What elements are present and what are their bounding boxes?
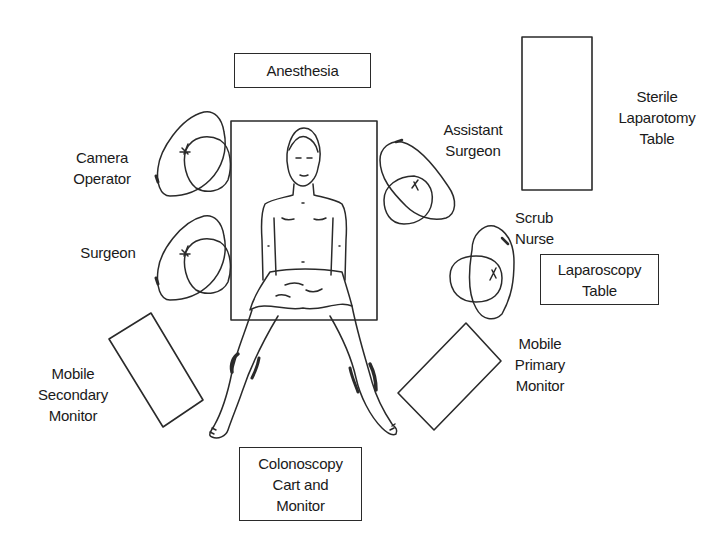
anesthesia-label: Anesthesia bbox=[266, 60, 338, 81]
scrub-nurse-label: Scrub Nurse bbox=[515, 207, 565, 249]
patient-figure bbox=[210, 128, 397, 438]
assistant-surgeon-label: Assistant Surgeon bbox=[432, 119, 514, 161]
sterile-laparotomy-table bbox=[522, 37, 592, 190]
sterile-laparotomy-table-label: Sterile Laparotomy Table bbox=[602, 86, 712, 149]
mobile-secondary-monitor-label: Mobile Secondary Monitor bbox=[28, 363, 118, 426]
anesthesia-box: Anesthesia bbox=[234, 53, 371, 88]
laparoscopy-table-box: Laparoscopy Table bbox=[540, 254, 659, 305]
scrub-nurse-figure bbox=[450, 226, 514, 319]
laparoscopy-table-label-2: Table bbox=[582, 280, 617, 301]
mobile-primary-monitor-label: Mobile Primary Monitor bbox=[505, 333, 575, 396]
mobile-primary-monitor bbox=[398, 323, 501, 430]
colonoscopy-label-3: Monitor bbox=[276, 495, 325, 516]
surgeon-label: Surgeon bbox=[68, 242, 148, 263]
colonoscopy-cart-box: Colonoscopy Cart and Monitor bbox=[239, 447, 362, 521]
colonoscopy-label-2: Cart and bbox=[273, 474, 329, 495]
laparoscopy-table-label-1: Laparoscopy bbox=[558, 259, 642, 280]
camera-operator-figure bbox=[156, 112, 230, 196]
operating-table bbox=[231, 121, 377, 320]
surgeon-figure bbox=[156, 216, 230, 300]
camera-operator-label: Camera Operator bbox=[62, 147, 142, 189]
mobile-secondary-monitor bbox=[109, 313, 203, 427]
colonoscopy-label-1: Colonoscopy bbox=[258, 453, 343, 474]
